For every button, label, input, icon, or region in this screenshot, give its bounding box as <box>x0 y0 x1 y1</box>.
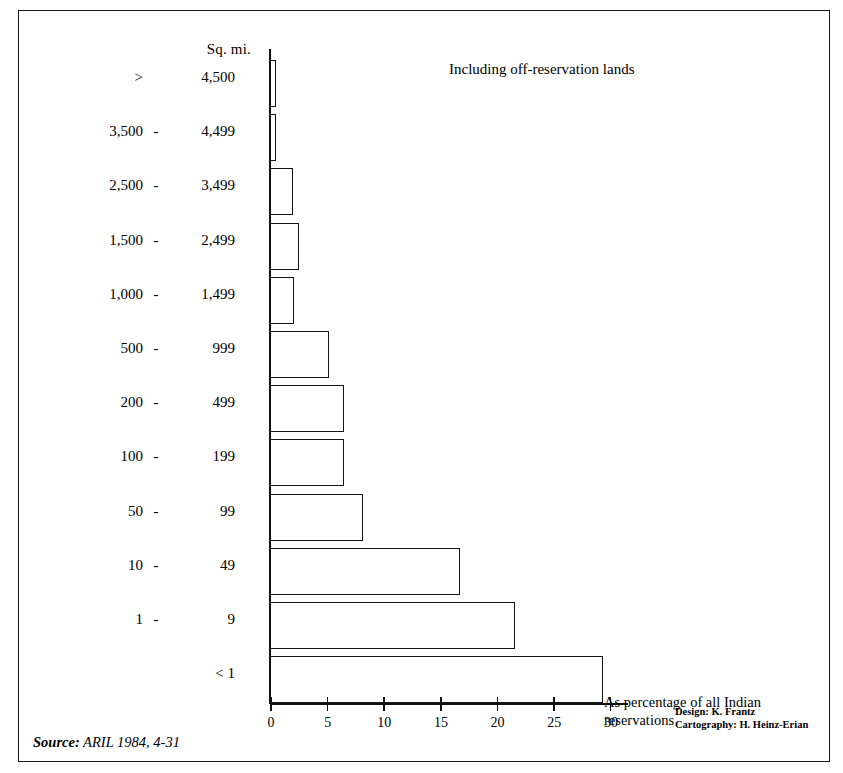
category-label: >4,500 <box>19 69 251 86</box>
category-label: 500-999 <box>19 340 251 357</box>
x-axis-tick-label: 25 <box>547 715 561 731</box>
category-range-dash: - <box>143 503 169 520</box>
category-range-low: 100 <box>69 448 143 465</box>
category-range-dash: - <box>143 177 169 194</box>
category-range-high: 4,499 <box>169 123 251 140</box>
bar-row: >4,500 <box>19 57 831 111</box>
category-label: < 1 <box>19 665 251 682</box>
bar-row: 2,500-3,499 <box>19 165 831 219</box>
x-axis-tick <box>327 697 329 711</box>
category-range-low: 3,500 <box>69 123 143 140</box>
category-label: 100-199 <box>19 448 251 465</box>
x-axis-tick-label: 5 <box>324 715 331 731</box>
category-label: 10-49 <box>19 557 251 574</box>
x-axis-tick <box>497 697 499 711</box>
x-axis-tick <box>383 697 385 711</box>
category-label: 1,500-2,499 <box>19 232 251 249</box>
category-range-dash: - <box>143 340 169 357</box>
category-range-dash: - <box>143 286 169 303</box>
bar <box>270 602 515 649</box>
bar-row: 3,500-4,499 <box>19 111 831 165</box>
category-range-low: 50 <box>69 503 143 520</box>
bar <box>270 168 293 215</box>
category-range-high: < 1 <box>69 665 251 682</box>
category-label: 1-9 <box>19 611 251 628</box>
bar-row: 50-99 <box>19 491 831 545</box>
bar <box>270 223 299 270</box>
x-axis-tick <box>270 697 272 711</box>
category-label: 200-499 <box>19 394 251 411</box>
figure-frame: Sq. mi. Including off-reservation lands … <box>18 10 830 762</box>
category-range-high: 49 <box>169 557 251 574</box>
category-range-dash: - <box>143 232 169 249</box>
category-range-low: 500 <box>69 340 143 357</box>
bar <box>270 331 329 378</box>
bar-row: 100-199 <box>19 436 831 490</box>
credit-cartography: Cartography: H. Heinz-Erian <box>675 718 825 731</box>
category-range-dash: - <box>143 123 169 140</box>
category-range-dash: - <box>143 448 169 465</box>
category-range-high: 999 <box>169 340 251 357</box>
credit-design: Design: K. Frantz <box>675 705 825 718</box>
bar-row: 1-9 <box>19 599 831 653</box>
category-range-dash: - <box>143 557 169 574</box>
source-reference: ARIL 1984, 4-31 <box>83 734 180 750</box>
bar-row: 1,500-2,499 <box>19 220 831 274</box>
bar <box>270 60 276 107</box>
category-range-high: 199 <box>169 448 251 465</box>
category-range-low: 1,500 <box>69 232 143 249</box>
category-label: 2,500-3,499 <box>19 177 251 194</box>
category-range-high: 3,499 <box>169 177 251 194</box>
source-line: Source: ARIL 1984, 4-31 <box>33 734 180 751</box>
bar <box>270 494 363 541</box>
plot-area: Sq. mi. Including off-reservation lands … <box>19 11 831 763</box>
bar-row: 500-999 <box>19 328 831 382</box>
category-label: 1,000-1,499 <box>19 286 251 303</box>
category-range-low: 1,000 <box>69 286 143 303</box>
category-range-high: 1,499 <box>169 286 251 303</box>
category-range-dash: - <box>143 611 169 628</box>
x-axis-tick-label: 20 <box>491 715 505 731</box>
category-range-high: 99 <box>169 503 251 520</box>
x-axis-tick <box>440 697 442 711</box>
category-range-high: 499 <box>169 394 251 411</box>
bar <box>270 656 603 703</box>
x-axis-tick-label: 10 <box>377 715 391 731</box>
x-axis-line: 051015202530 <box>270 703 628 705</box>
bar <box>270 385 344 432</box>
category-label: 3,500-4,499 <box>19 123 251 140</box>
bar-row: 200-499 <box>19 382 831 436</box>
category-range-low: 1 <box>69 611 143 628</box>
category-range-dash: - <box>143 394 169 411</box>
category-range-low: 2,500 <box>69 177 143 194</box>
bar-rows: >4,5003,500-4,4992,500-3,4991,500-2,4991… <box>19 57 831 707</box>
category-range-low: 200 <box>69 394 143 411</box>
bar <box>270 548 460 595</box>
category-range-low: > <box>69 69 143 86</box>
bar-row: 10-49 <box>19 545 831 599</box>
bar-row: 1,000-1,499 <box>19 274 831 328</box>
x-axis-tick-label: 0 <box>268 715 275 731</box>
category-range-low: 10 <box>69 557 143 574</box>
category-range-high: 9 <box>169 611 251 628</box>
category-label: 50-99 <box>19 503 251 520</box>
bar <box>270 114 276 161</box>
bar <box>270 439 344 486</box>
x-axis-tick-label: 15 <box>434 715 448 731</box>
credits-block: Design: K. Frantz Cartography: H. Heinz-… <box>675 705 825 731</box>
x-axis-tick <box>553 697 555 711</box>
bar <box>270 277 294 324</box>
source-label: Source: <box>33 734 80 750</box>
y-axis-title: Sq. mi. <box>19 41 251 58</box>
category-range-high: 2,499 <box>169 232 251 249</box>
category-range-high: 4,500 <box>169 69 251 86</box>
